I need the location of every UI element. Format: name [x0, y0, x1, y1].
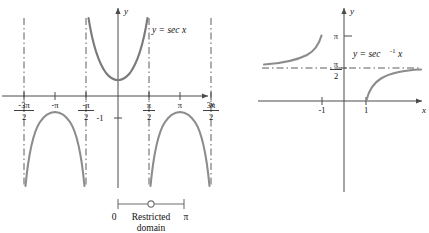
sec-lower-left-branch: [26, 112, 85, 186]
arcsec-equation-base: y = sec: [352, 49, 381, 59]
xtick0-num: -3π: [18, 100, 30, 110]
left-y-axis-arrow: [115, 8, 120, 14]
sec-lower-right-branch: [151, 112, 210, 186]
left-xtick-label-4: π: [178, 100, 183, 110]
right-ytick-label-pi-over-2: π 2: [330, 59, 342, 81]
left-x-axis-arrow: [202, 93, 208, 98]
left-x-axis: [2, 93, 208, 98]
xtick2-den: 2: [84, 112, 88, 122]
restricted-domain-label-line2: domain: [137, 223, 166, 233]
right-ytick-label-pi: π: [334, 31, 339, 41]
right-x-axis: [258, 98, 422, 103]
xtick2-num: -π: [82, 100, 90, 110]
arcsec-equation-exponent: -1: [390, 47, 395, 54]
arcsec-left-branch: [264, 36, 322, 65]
left-ytick-label-neg1: -1: [96, 113, 103, 123]
right-xtick-label-1: 1: [364, 105, 368, 115]
xtick3-num: π: [147, 100, 152, 110]
right-axis-x-label: x: [421, 105, 426, 115]
left-panel-group: y x y = sec x -1 -3π 2 -π -π 2 π 2 π: [2, 6, 219, 188]
restricted-domain-end-label: π: [184, 212, 189, 222]
restricted-domain-annotation: 0 Restricted π domain: [112, 199, 189, 233]
left-xtick-label-1: -π: [51, 100, 59, 110]
right-axis-y-label: y: [349, 6, 354, 16]
right-y-axis-arrow: [341, 8, 346, 14]
xtick0-den: 2: [22, 112, 26, 122]
arcsec-right-branch: [367, 70, 422, 101]
left-axis-y-label: y: [123, 6, 128, 16]
right-x-axis-arrow: [416, 98, 422, 103]
restricted-domain-start-label: 0: [112, 212, 117, 222]
xtick1-num: -π: [51, 100, 59, 110]
arcsec-equation-variable: x: [397, 49, 403, 59]
figure-svg: y x y = sec x -1 -3π 2 -π -π 2 π 2 π: [0, 0, 429, 233]
xtick5-num: 3π: [207, 100, 216, 110]
arcsec-equation-label: y = sec -1 x: [352, 47, 403, 60]
restricted-domain-open-circle: [148, 201, 154, 207]
right-ytick0-num: π: [334, 31, 339, 41]
xtick4-num: π: [178, 100, 183, 110]
sec-equation-label: y = sec x: [151, 25, 187, 35]
right-xtick-label-neg1: -1: [318, 105, 325, 115]
xtick3-den: 2: [147, 112, 151, 122]
secant-inverse-secant-figure: y x y = sec x -1 -3π 2 -π -π 2 π 2 π: [0, 0, 429, 233]
restricted-domain-label: Restricted: [132, 212, 171, 222]
xtick5-den: 2: [209, 112, 213, 122]
right-ytick1-den: 2: [334, 71, 338, 81]
right-panel-group: y x y = sec -1 x π π 2 -1 1: [258, 6, 426, 192]
right-ytick1-num: π: [334, 59, 339, 69]
left-y-axis: [115, 8, 120, 188]
